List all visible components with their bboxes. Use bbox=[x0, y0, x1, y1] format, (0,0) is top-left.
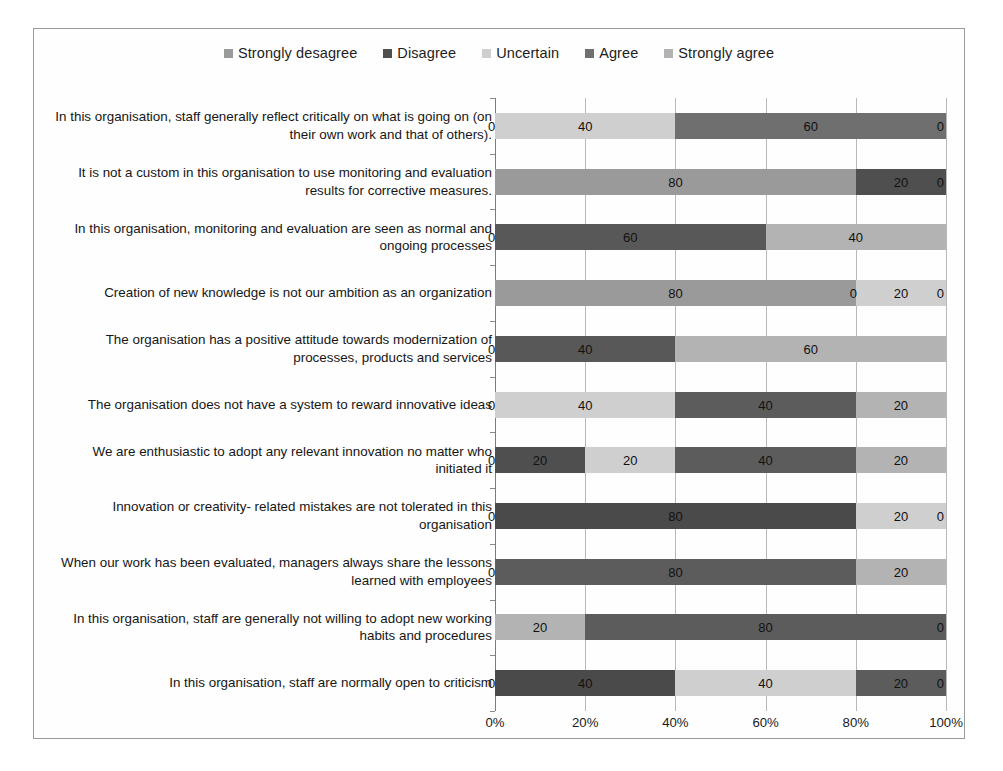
row-end-zero-label: 0 bbox=[937, 509, 944, 522]
row-end-zero-label: 0 bbox=[937, 175, 944, 188]
segment-value-label: 40 bbox=[675, 454, 855, 467]
category-label-text: Innovation or creativity- related mistak… bbox=[46, 498, 492, 533]
segment-value-label: 20 bbox=[856, 454, 946, 467]
segment-value-label: 40 bbox=[495, 677, 675, 690]
bar-segment[interactable]: 40 bbox=[675, 670, 855, 696]
category-label: Creation of new knowledge is not our amb… bbox=[46, 265, 492, 321]
bar-row: 202040200 bbox=[495, 447, 946, 473]
category-label: The organisation does not have a system … bbox=[46, 377, 492, 433]
legend-swatch-icon bbox=[383, 49, 392, 58]
category-label: In this organisation, staff generally re… bbox=[46, 98, 492, 154]
segment-value-label: 40 bbox=[495, 398, 675, 411]
bar-segment[interactable]: 40 bbox=[675, 447, 855, 473]
stacked-bar[interactable]: 6040 bbox=[495, 224, 946, 250]
stacked-bar[interactable]: 20204020 bbox=[495, 447, 946, 473]
stacked-bar[interactable]: 4060 bbox=[495, 113, 946, 139]
row-end-zero-label: 0 bbox=[937, 119, 944, 132]
stacked-bar[interactable]: 8020 bbox=[495, 169, 946, 195]
bar-segment[interactable]: 80 bbox=[495, 559, 856, 585]
legend-item: Strongly desagree bbox=[224, 45, 357, 61]
segment-value-label: 20 bbox=[856, 509, 946, 522]
segment-value-label: 40 bbox=[495, 342, 675, 355]
row-start-zero-label: 0 bbox=[488, 565, 495, 578]
bar-row: 406000 bbox=[495, 113, 946, 139]
category-label-text: In this organisation, monitoring and eva… bbox=[46, 220, 492, 255]
segment-value-label: 20 bbox=[856, 287, 946, 300]
category-label-text: In this organisation, staff are normally… bbox=[169, 674, 492, 692]
row-start-zero-label: 0 bbox=[488, 677, 495, 690]
bar-segment[interactable]: 60 bbox=[495, 224, 766, 250]
category-label-text: It is not a custom in this organisation … bbox=[46, 164, 492, 199]
segment-value-label: 80 bbox=[495, 287, 856, 300]
segment-value-label: 80 bbox=[495, 175, 856, 188]
segment-value-label: 20 bbox=[495, 621, 585, 634]
stacked-bar[interactable]: 8020 bbox=[495, 503, 946, 529]
category-label: In this organisation, monitoring and eva… bbox=[46, 209, 492, 265]
legend-swatch-icon bbox=[585, 49, 594, 58]
segment-value-label: 40 bbox=[675, 398, 855, 411]
row-end-zero-label: 0 bbox=[937, 677, 944, 690]
bar-segment[interactable]: 20 bbox=[856, 559, 946, 585]
stacked-bar[interactable]: 404020 bbox=[495, 670, 946, 696]
stacked-bar[interactable]: 2080 bbox=[495, 614, 946, 640]
bar-segment[interactable]: 80 bbox=[585, 614, 946, 640]
category-label-text: The organisation has a positive attitude… bbox=[46, 331, 492, 366]
category-label: The organisation has a positive attitude… bbox=[46, 321, 492, 377]
chart-legend: Strongly desagreeDisagreeUncertainAgreeS… bbox=[34, 45, 964, 61]
bar-segment[interactable]: 60 bbox=[675, 113, 946, 139]
stacked-bar[interactable]: 80020 bbox=[495, 280, 946, 306]
category-label: When our work has been evaluated, manage… bbox=[46, 544, 492, 600]
bar-segment[interactable]: 20 bbox=[585, 447, 675, 473]
bar-segment[interactable]: 20 bbox=[856, 169, 946, 195]
stacked-bar[interactable]: 8020 bbox=[495, 559, 946, 585]
category-label-text: In this organisation, staff are generall… bbox=[46, 610, 492, 645]
category-axis-labels: In this organisation, staff generally re… bbox=[46, 98, 492, 711]
value-axis-labels: 0%20%40%60%80%100% bbox=[495, 715, 946, 741]
bar-segment[interactable]: 40 bbox=[495, 670, 675, 696]
bar-segment[interactable]: 20 bbox=[856, 670, 946, 696]
category-label: In this organisation, staff are generall… bbox=[46, 600, 492, 656]
legend-swatch-icon bbox=[224, 49, 233, 58]
bar-row: 40402000 bbox=[495, 670, 946, 696]
bar-segment[interactable]: 40 bbox=[495, 113, 675, 139]
legend-item-label: Disagree bbox=[397, 45, 456, 61]
segment-value-label: 20 bbox=[856, 398, 946, 411]
bar-segment[interactable]: 20 bbox=[856, 447, 946, 473]
bar-segment[interactable]: 20 bbox=[495, 614, 585, 640]
stacked-bar[interactable]: 404020 bbox=[495, 392, 946, 418]
bar-row: 20800 bbox=[495, 614, 946, 640]
category-label-text: We are enthusiastic to adopt any relevan… bbox=[46, 443, 492, 478]
bar-segment[interactable]: 40 bbox=[495, 336, 675, 362]
bar-segment[interactable]: 60 bbox=[675, 336, 946, 362]
row-start-zero-label: 0 bbox=[488, 231, 495, 244]
legend-item: Disagree bbox=[383, 45, 456, 61]
bar-segment[interactable]: 80 bbox=[495, 503, 856, 529]
bar-segment[interactable]: 80 bbox=[495, 169, 856, 195]
segment-value-label: 20 bbox=[495, 454, 585, 467]
row-start-zero-label: 0 bbox=[488, 342, 495, 355]
chart-frame: Strongly desagreeDisagreeUncertainAgreeS… bbox=[33, 28, 965, 739]
stacked-bar[interactable]: 4060 bbox=[495, 336, 946, 362]
bar-rows: 4060008020060400800200406004040200202040… bbox=[495, 98, 946, 711]
bar-row: 40600 bbox=[495, 336, 946, 362]
bar-segment[interactable]: 40 bbox=[675, 392, 855, 418]
legend-item: Strongly agree bbox=[664, 45, 774, 61]
bar-segment[interactable]: 020 bbox=[856, 280, 946, 306]
bar-segment[interactable]: 80 bbox=[495, 280, 856, 306]
bar-segment[interactable]: 20 bbox=[495, 447, 585, 473]
gridline bbox=[946, 98, 947, 711]
category-label: In this organisation, staff are normally… bbox=[46, 655, 492, 711]
bar-segment[interactable]: 20 bbox=[856, 392, 946, 418]
category-label-text: Creation of new knowledge is not our amb… bbox=[104, 284, 492, 302]
category-label: It is not a custom in this organisation … bbox=[46, 154, 492, 210]
bar-segment[interactable]: 20 bbox=[856, 503, 946, 529]
segment-value-label: 60 bbox=[495, 231, 766, 244]
segment-value-label: 80 bbox=[495, 565, 856, 578]
bar-segment[interactable]: 40 bbox=[766, 224, 946, 250]
legend-swatch-icon bbox=[482, 49, 491, 58]
axis-tick bbox=[490, 711, 495, 712]
legend-item: Uncertain bbox=[482, 45, 559, 61]
row-start-zero-label: 0 bbox=[488, 398, 495, 411]
bar-segment[interactable]: 40 bbox=[495, 392, 675, 418]
legend-item-label: Uncertain bbox=[496, 45, 559, 61]
